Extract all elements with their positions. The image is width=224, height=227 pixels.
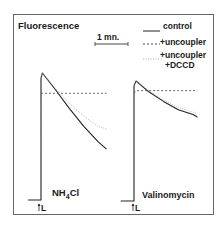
light-label-valinomycin: L	[135, 203, 140, 213]
panel-label-nh4cl-main: NH	[52, 187, 66, 198]
chart-title: Fluorescence	[18, 20, 79, 31]
time-scale-label: 1 mn.	[97, 32, 119, 42]
trace-valinomycin-control	[121, 81, 198, 201]
trace-nh4cl-uncoupler-dccd	[41, 73, 107, 129]
panel-label-nh4cl: NH4Cl	[52, 187, 79, 200]
fluorescence-chart: Fluorescence 1 mn. control +uncoupler +u…	[0, 0, 224, 227]
trace-valinomycin-uncoupler-dccd	[134, 81, 197, 113]
trace-valinomycin-uncoupler	[134, 91, 197, 93]
panel-label-valinomycin: Valinomycin	[142, 190, 195, 200]
legend-label-uncoupler-dccd-line2: +DCCD	[165, 60, 195, 70]
light-label-nh4cl: L	[41, 203, 46, 213]
legend-label-uncoupler-dccd-line1: +uncoupler	[160, 50, 207, 60]
light-marker-valinomycin: L	[132, 203, 141, 213]
legend: control +uncoupler +uncoupler +DCCD	[143, 21, 207, 70]
trace-nh4cl-control	[28, 73, 106, 200]
legend-label-control: control	[163, 21, 192, 31]
light-marker-nh4cl: L	[38, 203, 47, 213]
panel-label-nh4cl-tail: Cl	[70, 187, 80, 198]
legend-label-uncoupler: +uncoupler	[160, 37, 207, 47]
